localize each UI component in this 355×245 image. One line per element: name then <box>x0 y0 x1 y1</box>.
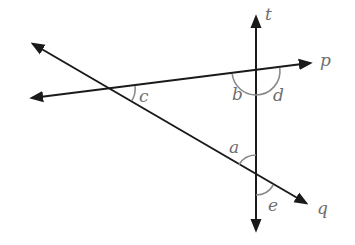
label-angle-e: e <box>268 195 278 215</box>
label-angle-b: b <box>232 84 243 104</box>
angle-e-arc <box>256 185 273 195</box>
label-t: t <box>265 4 272 24</box>
label-angle-d: d <box>273 85 284 105</box>
label-angle-a: a <box>229 137 239 157</box>
label-p: p <box>320 50 331 70</box>
angle-c-arc <box>132 86 135 101</box>
label-q: q <box>317 198 328 218</box>
geometry-diagram: t p q a b c d e <box>0 0 355 245</box>
label-angle-c: c <box>139 86 149 106</box>
angle-a-arc <box>239 155 256 165</box>
